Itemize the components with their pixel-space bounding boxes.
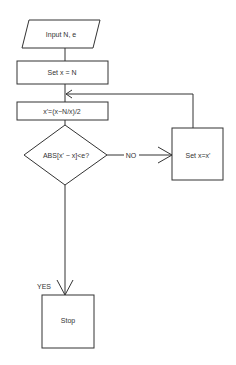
init-node-label: Set x = N bbox=[48, 69, 77, 76]
flowchart: Input N, e Set x = N x'=(x−N/x)/2 ABS[x'… bbox=[0, 0, 236, 365]
no-label: NO bbox=[126, 152, 137, 159]
stop-node-label: Stop bbox=[61, 317, 76, 325]
input-node-label: Input N, e bbox=[46, 31, 76, 39]
update-node-label: Set x=x' bbox=[186, 152, 211, 159]
edge-update-loop bbox=[66, 94, 193, 128]
compute-node-label: x'=(x−N/x)/2 bbox=[43, 108, 81, 116]
yes-label: YES bbox=[37, 283, 51, 290]
decision-node-label: ABS[x' − x]<e? bbox=[43, 152, 89, 160]
